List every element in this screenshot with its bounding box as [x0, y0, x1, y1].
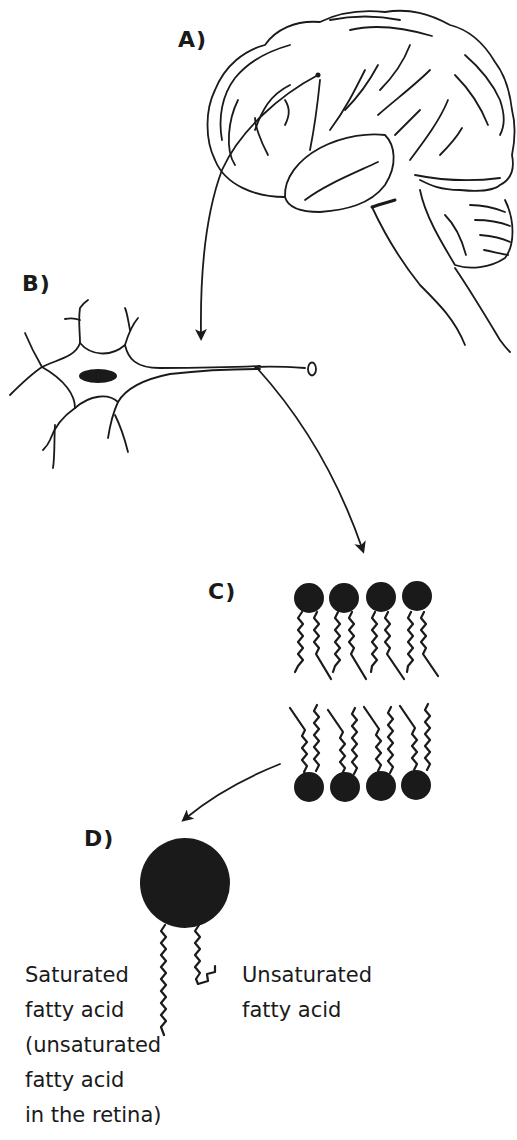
phospholipid-head [330, 772, 360, 802]
arrow-neuron-to-bilayer [257, 368, 362, 548]
caption-line: Saturated [25, 958, 162, 993]
phospholipid-head [294, 772, 324, 802]
panel-label-d: D) [84, 826, 114, 851]
figure: A) B) C) D) Saturated fatty acid (unsatu… [0, 0, 517, 1140]
arrow-bilayer-to-phospholipid [186, 764, 280, 818]
caption-line: in the retina) [25, 1098, 162, 1133]
phospholipid-bilayer [290, 581, 438, 802]
caption-saturated-fatty-acid: Saturated fatty acid (unsaturated fatty … [25, 958, 162, 1133]
phospholipid-head [294, 583, 324, 613]
brain-illustration [208, 11, 515, 352]
phospholipid-head [329, 583, 359, 613]
phospholipid-head [366, 582, 396, 612]
unsaturated-tail [195, 925, 215, 984]
caption-line: fatty acid [25, 993, 162, 1028]
caption-unsaturated-fatty-acid: Unsaturated fatty acid [242, 958, 372, 1028]
neuron-nucleus [79, 369, 117, 383]
caption-line: Unsaturated [242, 958, 372, 993]
panel-label-b: B) [22, 271, 51, 296]
panel-label-c: C) [208, 579, 236, 604]
panel-label-a: A) [178, 27, 207, 52]
phospholipid-head-large [140, 838, 230, 928]
caption-line: fatty acid [242, 993, 372, 1028]
arrow-brain-to-neuron [201, 75, 318, 335]
saturated-tail [161, 925, 166, 1035]
caption-line: (unsaturated [25, 1028, 162, 1063]
phospholipid-head [402, 581, 432, 611]
caption-line: fatty acid [25, 1063, 162, 1098]
